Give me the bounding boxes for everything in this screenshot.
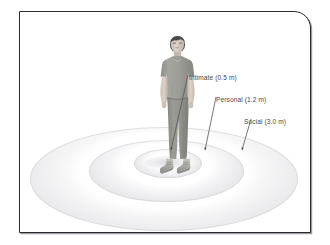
person-shoes	[160, 159, 190, 174]
zone-label-personal: Personal (1.2 m)	[216, 96, 266, 103]
person-figure	[152, 35, 204, 175]
zone-label-social: Social (3.0 m)	[244, 118, 286, 125]
illustration-canvas: Intimate (0.5 m) Personal (1.2 m) Social…	[0, 0, 330, 245]
zone-label-intimate: Intimate (0.5 m)	[189, 74, 237, 81]
person-pants	[167, 97, 189, 159]
figure-frame: Intimate (0.5 m) Personal (1.2 m) Social…	[19, 11, 311, 233]
person-head-group	[170, 36, 185, 58]
